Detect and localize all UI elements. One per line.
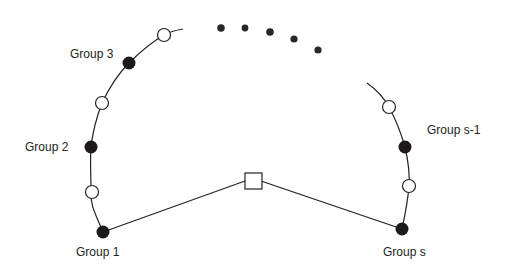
center-square-node — [245, 173, 262, 189]
node-group-2 — [85, 141, 98, 154]
label-group-3: Group 3 — [70, 47, 114, 61]
label-group-1: Group 1 — [76, 245, 120, 259]
node-group-1 — [97, 226, 110, 239]
open-node — [158, 29, 171, 42]
group-diagram: Group 3 Group 2 Group 1 Group s-1 Group … — [0, 0, 506, 270]
open-node — [383, 101, 396, 114]
open-node — [86, 186, 99, 199]
open-node — [403, 180, 416, 193]
node-group-s — [396, 223, 409, 236]
label-group-s: Group s — [383, 245, 426, 259]
label-group-s-minus-1: Group s-1 — [427, 123, 481, 137]
label-group-2: Group 2 — [25, 140, 69, 154]
open-node — [96, 97, 109, 110]
node-group-3 — [123, 57, 136, 70]
spoke-group-1 — [103, 181, 245, 232]
ellipsis-dots — [217, 24, 321, 53]
node-group-s-1 — [399, 141, 412, 154]
spoke-group-s — [261, 181, 402, 229]
